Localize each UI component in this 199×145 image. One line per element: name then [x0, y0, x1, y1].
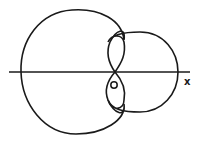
diagram-canvas: x: [0, 0, 199, 145]
x-axis-label: x: [184, 76, 191, 87]
origin-marker-icon: [111, 82, 117, 88]
